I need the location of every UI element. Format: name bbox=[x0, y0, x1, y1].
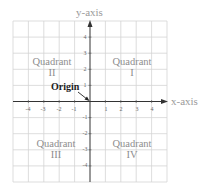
origin-label: Origin bbox=[51, 82, 79, 92]
quadrant-3-label: Quadrant III bbox=[26, 138, 86, 160]
x-tick-label: 2 bbox=[116, 106, 126, 112]
origin-arrow-icon bbox=[78, 92, 90, 101]
quadrant-3-numeral: III bbox=[26, 149, 86, 160]
x-tick-label: 3 bbox=[132, 106, 142, 112]
x-tick-label: -1 bbox=[69, 106, 79, 112]
y-tick-label: -3 bbox=[80, 146, 90, 152]
x-tick-label: -3 bbox=[38, 106, 48, 112]
quadrant-4-numeral: IV bbox=[102, 149, 162, 160]
y-axis-label: y-axis bbox=[76, 7, 103, 18]
quadrant-2-label: Quadrant II bbox=[22, 56, 82, 78]
quadrant-4-word: Quadrant bbox=[102, 138, 162, 149]
y-tick-label: 2 bbox=[80, 66, 90, 72]
quadrant-3-word: Quadrant bbox=[26, 138, 86, 149]
quadrant-2-numeral: II bbox=[22, 67, 82, 78]
y-tick-label: 4 bbox=[80, 34, 90, 40]
x-axis-label: x-axis bbox=[171, 96, 198, 107]
x-tick-label: -4 bbox=[23, 106, 33, 112]
y-tick-label: 1 bbox=[80, 82, 90, 88]
quadrant-2-word: Quadrant bbox=[22, 56, 82, 67]
quadrant-1-label: Quadrant I bbox=[102, 56, 162, 78]
quadrant-4-label: Quadrant IV bbox=[102, 138, 162, 160]
y-tick-label: -2 bbox=[80, 130, 90, 136]
x-tick-label: 4 bbox=[147, 106, 157, 112]
y-tick-label: 3 bbox=[80, 50, 90, 56]
quadrant-1-word: Quadrant bbox=[102, 56, 162, 67]
y-tick-label: -4 bbox=[80, 162, 90, 168]
y-tick-label: -1 bbox=[80, 114, 90, 120]
x-tick-label: -2 bbox=[54, 106, 64, 112]
quadrant-1-numeral: I bbox=[102, 67, 162, 78]
x-tick-label: 1 bbox=[101, 106, 111, 112]
